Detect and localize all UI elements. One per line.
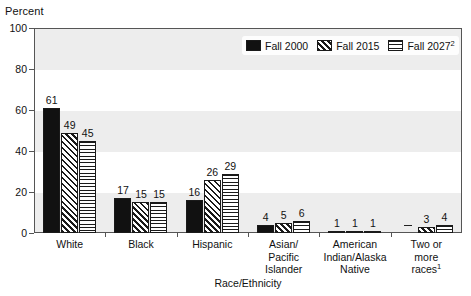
bar-asian-pacific-islander-fall-2015[interactable] (275, 223, 292, 233)
bar-item[interactable]: 26 (204, 28, 221, 233)
y-axis-title: Percent (5, 5, 44, 17)
bar-item[interactable] (400, 28, 417, 233)
bar-value-label: 3 (423, 214, 429, 225)
bar-value-label: 1 (370, 218, 376, 229)
legend-item-fall-2015[interactable]: Fall 2015 (317, 40, 379, 52)
bar-asian-pacific-islander-fall-2000[interactable] (257, 225, 274, 233)
x-axis-label-line: Two or (383, 238, 470, 251)
bar-group-hispanic: 162629 (177, 28, 248, 233)
bar-asian-pacific-islander-fall-2027[interactable] (293, 221, 310, 233)
bar-value-label: 61 (46, 95, 58, 106)
bar-item[interactable]: 5 (275, 28, 292, 233)
bar-row: 162629 (177, 28, 248, 233)
bar-american-indian-alaska-native-fall-2027[interactable] (364, 231, 381, 233)
bar-group-asian-pacific-islander: 456 (248, 28, 319, 233)
bar-white-fall-2027[interactable] (79, 141, 96, 233)
bar-item[interactable]: 16 (186, 28, 203, 233)
bar-item[interactable]: 4 (436, 28, 453, 233)
not-available-dash-icon (404, 225, 412, 227)
bar-item[interactable]: 1 (328, 28, 345, 233)
bar-value-label: 1 (352, 218, 358, 229)
legend-item-fall-2000[interactable]: Fall 2000 (246, 40, 308, 52)
bar-value-label: 26 (206, 167, 218, 178)
footnote-marker: 2 (451, 38, 455, 47)
bar-value-label: 16 (188, 187, 200, 198)
bar-two-or-more-races-fall-2027[interactable] (436, 225, 453, 233)
footnote-marker: 1 (437, 262, 441, 271)
bar-value-label: 1 (334, 218, 340, 229)
bar-group-white: 614945 (34, 28, 105, 233)
bar-white-fall-2000[interactable] (43, 108, 60, 233)
bar-value-label: 15 (135, 189, 147, 200)
bar-value-label: 6 (299, 208, 305, 219)
legend-item-fall-2027[interactable]: Fall 20272 (388, 40, 454, 52)
bar-item[interactable]: 4 (257, 28, 274, 233)
bar-item[interactable]: 3 (418, 28, 435, 233)
bar-value-label: 49 (64, 120, 76, 131)
bar-group-black: 171515 (105, 28, 176, 233)
bar-groups: 61494517151516262945611134 (34, 28, 462, 233)
bar-white-fall-2015[interactable] (61, 133, 78, 233)
x-axis-label-two-or-more-races: Two ormoreraces1 (383, 238, 470, 276)
bar-value-label: 17 (117, 185, 129, 196)
legend-swatch-icon (388, 40, 403, 51)
bar-item[interactable]: 61 (43, 28, 60, 233)
chart-legend: Fall 2000Fall 2015Fall 20272 (242, 36, 459, 55)
legend-swatch-icon (246, 40, 261, 51)
bar-value-label: 15 (153, 189, 165, 200)
bar-item[interactable]: 29 (222, 28, 239, 233)
bar-item[interactable]: 49 (61, 28, 78, 233)
bar-row: 614945 (34, 28, 105, 233)
bar-black-fall-2000[interactable] (114, 198, 131, 233)
x-axis-tick-mark (248, 233, 249, 237)
bar-value-label: 45 (82, 128, 94, 139)
x-axis-tick-mark (177, 233, 178, 237)
bar-item[interactable]: 15 (132, 28, 149, 233)
bar-value-label: 4 (441, 212, 447, 223)
bar-group-two-or-more-races: 34 (391, 28, 462, 233)
bar-group-american-indian-alaska-native: 111 (319, 28, 390, 233)
bar-value-label: 29 (224, 161, 236, 172)
bar-item[interactable]: 15 (150, 28, 167, 233)
bar-item[interactable]: 1 (364, 28, 381, 233)
bar-item[interactable]: 1 (346, 28, 363, 233)
bar-row: 456 (248, 28, 319, 233)
bar-value-label: 5 (281, 210, 287, 221)
bar-value-label: 4 (263, 212, 269, 223)
legend-label: Fall 20272 (407, 40, 454, 52)
x-axis-title: Race/Ethnicity (34, 277, 462, 289)
x-axis-tick-mark (105, 233, 106, 237)
bar-hispanic-fall-2027[interactable] (222, 174, 239, 233)
bar-two-or-more-races-fall-2015[interactable] (418, 227, 435, 233)
y-axis-tick-mark (29, 233, 34, 234)
legend-swatch-icon (317, 40, 332, 51)
chart-root: Percent 100806040200 6149451715151626294… (0, 0, 471, 296)
bar-black-fall-2015[interactable] (132, 202, 149, 233)
bar-item[interactable]: 17 (114, 28, 131, 233)
x-axis-tick-mark (391, 233, 392, 237)
x-axis-label-line: races1 (383, 263, 470, 276)
bar-american-indian-alaska-native-fall-2015[interactable] (346, 231, 363, 233)
legend-label: Fall 2000 (265, 40, 308, 52)
bar-item[interactable]: 6 (293, 28, 310, 233)
bar-hispanic-fall-2000[interactable] (186, 200, 203, 233)
bar-hispanic-fall-2015[interactable] (204, 180, 221, 233)
legend-label: Fall 2015 (336, 40, 379, 52)
bar-row: 171515 (105, 28, 176, 233)
bar-black-fall-2027[interactable] (150, 202, 167, 233)
bar-item[interactable]: 45 (79, 28, 96, 233)
bar-row: 111 (319, 28, 390, 233)
x-axis-tick-mark (319, 233, 320, 237)
x-axis-label-line: more (383, 251, 470, 264)
bar-american-indian-alaska-native-fall-2000[interactable] (328, 231, 345, 233)
bar-row: 34 (391, 28, 462, 233)
